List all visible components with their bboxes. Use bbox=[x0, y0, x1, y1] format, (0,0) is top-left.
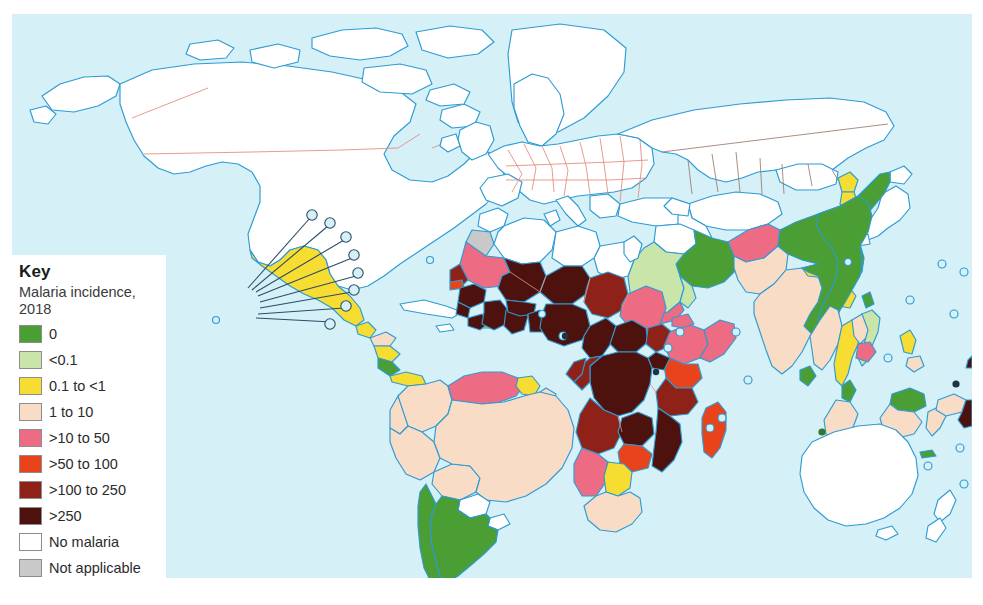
legend-swatch bbox=[19, 533, 42, 551]
legend-subtitle: Malaria incidence, 2018 bbox=[19, 284, 158, 318]
map-legend: Key Malaria incidence, 2018 0<0.10.1 to … bbox=[10, 255, 166, 589]
legend-title: Key bbox=[19, 262, 158, 282]
legend-swatch bbox=[19, 481, 42, 499]
legend-row: >100 to 250 bbox=[19, 477, 158, 503]
legend-label: Not applicable bbox=[49, 559, 141, 577]
legend-label: >10 to 50 bbox=[49, 429, 110, 447]
legend-swatch bbox=[19, 377, 42, 395]
legend-row: No malaria bbox=[19, 529, 158, 555]
legend-row: 0 bbox=[19, 321, 158, 347]
legend-row: Not applicable bbox=[19, 555, 158, 581]
legend-label: >100 to 250 bbox=[49, 481, 126, 499]
island-jamaica bbox=[436, 324, 454, 332]
legend-row: 1 to 10 bbox=[19, 399, 158, 425]
legend-label: <0.1 bbox=[49, 351, 78, 369]
legend-label: >250 bbox=[49, 507, 82, 525]
malaria-incidence-map-figure: .ld{stroke:#2d9bd4;stroke-width:1.15;str… bbox=[0, 0, 983, 605]
legend-row: >50 to 100 bbox=[19, 451, 158, 477]
legend-label: 0 bbox=[49, 325, 57, 343]
legend-swatch bbox=[19, 351, 42, 369]
legend-items: 0<0.10.1 to <11 to 10>10 to 50>50 to 100… bbox=[19, 321, 158, 581]
legend-label: No malaria bbox=[49, 533, 119, 551]
legend-swatch bbox=[19, 325, 42, 343]
legend-row: >10 to 50 bbox=[19, 425, 158, 451]
legend-subtitle-line-1: Malaria incidence, bbox=[19, 284, 158, 301]
legend-label: 0.1 to <1 bbox=[49, 377, 106, 395]
legend-swatch bbox=[19, 403, 42, 421]
legend-label: >50 to 100 bbox=[49, 455, 118, 473]
legend-row: <0.1 bbox=[19, 347, 158, 373]
legend-swatch bbox=[19, 455, 42, 473]
legend-swatch bbox=[19, 559, 42, 577]
legend-row: >250 bbox=[19, 503, 158, 529]
legend-swatch bbox=[19, 507, 42, 525]
legend-swatch bbox=[19, 429, 42, 447]
legend-subtitle-line-2: 2018 bbox=[19, 301, 158, 318]
legend-label: 1 to 10 bbox=[49, 403, 93, 421]
legend-row: 0.1 to <1 bbox=[19, 373, 158, 399]
